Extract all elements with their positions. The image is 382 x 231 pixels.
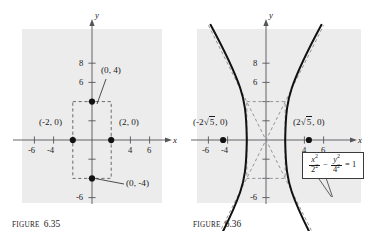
figure-6-36-y-tick-6: 6 [253,78,257,87]
figure-pair-page: x y -6 -4 4 6 8 6 -6 (0, 4) (-2, 0) (2, … [0,0,382,231]
point-0-4 [89,99,95,105]
figure-6-36-caption-number: 6.36 [225,219,241,229]
x-axis-arrow [350,137,357,142]
x-axis-arrow [165,137,172,142]
hyperbola-right-branch [285,25,321,231]
figure-6-36-y-tick--6: -6 [250,193,257,202]
figure-6-36-x-axis-name: x [358,136,362,145]
figure-6-35-x-tick-6: 6 [147,146,151,155]
focus-right-prefix: (2 [293,117,301,127]
equation-equals: = 1 [345,161,356,169]
figure-6-36-caption: FIGURE 6.36 [193,213,241,231]
figure-6-35-y-tick--6: -6 [76,193,83,202]
figure-6-35-graph [0,0,191,231]
figure-6-35-x-tick-4: 4 [128,146,132,155]
equation-callout-box: x2 22 − y2 42 = 1 [302,152,364,179]
figure-6-36-caption-word: FIGURE [193,221,221,229]
figure-6-35-label-2-0: (2, 0) [119,118,139,127]
figure-6-36-y-tick-8: 8 [253,59,257,68]
equation-term-1-denominator: 22 [309,165,320,175]
figure-6-35-y-axis-name: y [95,11,99,20]
figure-6-36-y-axis-name: y [269,11,273,20]
figure-6-36-x-tick--6: -6 [202,146,209,155]
focus-left-suffix: , 0) [215,117,227,127]
y-axis-arrow [89,19,94,26]
equation-term-2-denominator: 42 [331,165,342,175]
y-axis-arrow [263,19,268,26]
hyperbola-left-branch [211,25,247,231]
figure-6-35-y-tick-6: 6 [79,78,83,87]
figure-6-35-y-tick-8: 8 [79,59,83,68]
leader-line-top [97,79,106,104]
figure-6-36-graph [191,0,382,231]
point-0-neg4 [89,175,95,181]
point-neg2-0 [70,137,76,143]
equation-operator: − [323,161,328,169]
equation-term-2: y2 42 [331,156,342,175]
figure-6-36-x-tick--4: -4 [221,146,228,155]
figure-6-35-x-axis-name: x [173,136,177,145]
focus-right [306,137,312,143]
figure-6-35-label-0-neg4: (0, -4) [126,179,149,188]
hyperbola-equation: x2 22 − y2 42 = 1 [308,156,358,175]
equation-term-1: x2 22 [309,156,320,175]
figure-6-35-caption-word: FIGURE [12,221,40,229]
focus-left [220,137,226,143]
figure-6-35-caption: FIGURE 6.35 [12,213,60,231]
figure-6-35-label-0-4: (0, 4) [101,66,121,75]
figure-6-35-x-tick--6: -6 [28,146,35,155]
figure-6-36-focus-label-left: (-2√5, 0) [193,118,228,127]
figure-6-36: x y -6 -4 4 6 8 6 -6 (-2√5, 0) (2√5, 0) … [191,0,382,231]
radical-icon: √5 [204,118,216,127]
figure-6-35-caption-number: 6.35 [44,219,60,229]
point-2-0 [108,137,114,143]
figure-6-35-x-tick--4: -4 [47,146,54,155]
focus-right-suffix: , 0) [312,117,324,127]
figure-6-36-focus-label-right: (2√5, 0) [293,118,325,127]
focus-left-prefix: (-2 [193,117,204,127]
leader-line-bottom [96,179,125,184]
radical-icon: √5 [301,118,313,127]
figure-6-35: x y -6 -4 4 6 8 6 -6 (0, 4) (-2, 0) (2, … [0,0,191,231]
figure-6-35-label-neg2-0: (-2, 0) [39,118,62,127]
